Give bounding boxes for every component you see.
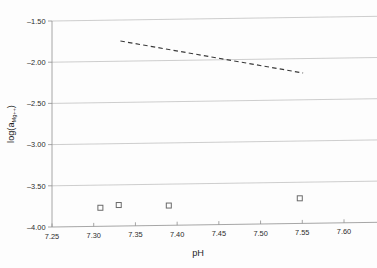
y-tick-label: –4.00 [27, 223, 46, 232]
data-point-marker [297, 196, 302, 201]
data-point-marker [116, 203, 121, 208]
y-axis-title: log(aMg++) [6, 105, 17, 143]
y-tick-label: –2.50 [27, 99, 46, 108]
data-point-marker [166, 203, 171, 208]
gridline-y--1.50 [52, 16, 377, 21]
x-tick-label: 7.60 [337, 227, 351, 236]
x-axis-title: pH [192, 248, 204, 258]
y-tick-label: –2.00 [27, 58, 46, 67]
x-tick-label: 7.55 [295, 228, 309, 237]
x-axis-line [52, 222, 377, 227]
chart-plot-area: –1.50–2.00–2.50–3.00–3.50–4.007.257.307.… [0, 0, 377, 268]
x-tick-label: 7.25 [45, 232, 59, 241]
gridline-y--2.00 [52, 58, 377, 63]
y-tick-label: –3.00 [27, 140, 46, 149]
gridline-y--3.00 [52, 140, 377, 145]
chart-figure: –1.50–2.00–2.50–3.00–3.50–4.007.257.307.… [0, 0, 377, 268]
trend-line-dashed [120, 41, 303, 73]
gridline-y--2.50 [52, 99, 377, 104]
x-tick-label: 7.40 [170, 230, 184, 239]
data-point-marker [98, 205, 103, 210]
gridline-y--3.50 [52, 181, 377, 186]
x-tick-label: 7.35 [128, 230, 142, 239]
x-tick-label: 7.50 [253, 229, 267, 238]
y-tick-label: –3.50 [27, 182, 46, 191]
x-tick-label: 7.30 [87, 231, 101, 240]
x-tick-label: 7.45 [212, 229, 226, 238]
y-tick-label: –1.50 [27, 17, 46, 26]
